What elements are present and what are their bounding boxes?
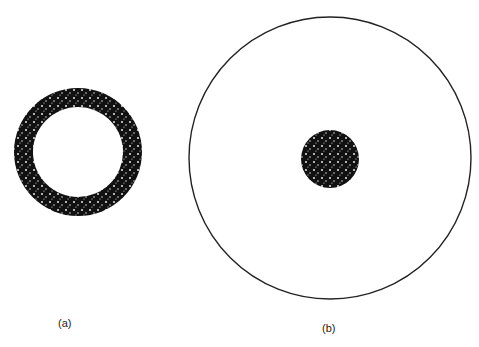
diagram-canvas	[0, 0, 479, 347]
panel-b-label: (b)	[322, 322, 335, 334]
panel-a-ring	[0, 0, 479, 347]
panel-b-core-disk	[301, 130, 359, 188]
panel-a-label: (a)	[58, 317, 71, 329]
